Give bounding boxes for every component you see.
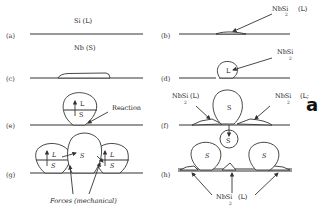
subscript-2: 2	[184, 100, 187, 105]
reaction-label: Reaction	[112, 104, 141, 112]
grain-g-center	[68, 133, 102, 173]
liquid-L-g-right: L	[109, 151, 114, 159]
panel-b: (b) NbSi 2 (L)	[161, 5, 308, 40]
liquid-label-f-left: (L)	[190, 92, 200, 100]
subscript-2: 2	[285, 12, 288, 17]
panel-label-d: (d)	[161, 75, 171, 83]
solid-S-f2: S	[226, 137, 230, 145]
pointer-arrow-f-left	[196, 106, 210, 119]
panel-label-e: (e)	[6, 122, 15, 130]
solid-S-g-right: S	[110, 162, 115, 170]
panel-label-g: (g)	[6, 171, 16, 179]
panel-label-f: (f)	[161, 122, 169, 130]
side-letter: a	[306, 94, 318, 115]
panel-c: (c)	[6, 73, 143, 83]
panel-g: (g) L S L S S Forces (mechanical)	[6, 133, 143, 205]
panel-label-b: (b)	[161, 32, 171, 40]
nbsi2-label-f-left: NbSi	[172, 92, 188, 100]
panel-h: (h) S S NbSi 2 (L)	[161, 142, 292, 206]
pointer-arrow-b	[233, 14, 272, 32]
liquid-L-d: L	[226, 67, 231, 75]
pointer-arrow-f-right	[255, 106, 270, 119]
subscript-2: 2	[229, 201, 232, 206]
subscript-2: 2	[289, 56, 292, 61]
nbsi2-film-f-right	[237, 119, 272, 125]
reaction-stages-diagram: (a) Si (L) Nb (S) (b) NbSi 2 (L) (c) (d)…	[0, 0, 322, 215]
nbsi2-label-f-right: NbSi	[275, 92, 291, 100]
panel-a: (a) Si (L) Nb (S)	[6, 17, 143, 52]
panel-label-h: (h)	[161, 171, 171, 179]
nbsi2-film-h-left	[180, 166, 198, 170]
nbsi2-nucleus-b	[216, 32, 246, 34]
solid-S-g-left: S	[51, 162, 56, 170]
pointer-arrow-h-right	[255, 173, 278, 195]
solid-S-h-left: S	[205, 152, 210, 160]
subscript-2: 2	[287, 100, 290, 105]
nb-solid-label: Nb (S)	[74, 44, 96, 52]
solid-S-h-right: S	[262, 152, 267, 160]
pointer-arrow-h-left	[192, 173, 212, 195]
panel-f: (f) S S NbSi 2 (L) NbSi 2 (L;	[161, 90, 309, 148]
nbsi2-film-h-center	[222, 163, 236, 170]
panel-label-a: (a)	[6, 32, 15, 40]
nbsi2-label-h: NbSi	[216, 193, 232, 201]
liquid-label-b: (L)	[298, 5, 308, 13]
solid-S-g-center: S	[80, 152, 85, 160]
panel-label-c: (c)	[6, 75, 15, 83]
nbsi2-label-d: NbSi	[277, 48, 293, 56]
solid-S-e: S	[79, 111, 83, 119]
solid-S-f: S	[227, 104, 231, 112]
grain-e	[63, 93, 97, 125]
liquid-label-h: (L)	[238, 193, 248, 201]
liquid-L-g-left: L	[51, 151, 56, 159]
nbsi2-layer-c	[58, 73, 110, 78]
panel-d: (d) L NbSi 2	[161, 48, 293, 83]
panel-e: (e) L S Reaction	[6, 93, 143, 130]
pointer-arrow-d	[233, 58, 272, 70]
si-liquid-label: Si (L)	[74, 17, 92, 25]
forces-label: Forces (mechanical)	[49, 197, 117, 205]
liquid-L-e: L	[80, 100, 85, 108]
